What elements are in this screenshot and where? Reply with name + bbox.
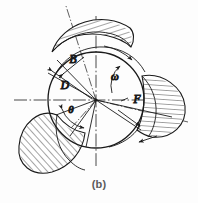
hub-center-point xyxy=(94,98,97,101)
label-pitch: F xyxy=(132,93,141,105)
label-angular-velocity: ω xyxy=(111,70,119,82)
blade-upper xyxy=(40,2,150,64)
label-blade-angle: θ xyxy=(68,103,74,115)
figure-caption: (b) xyxy=(0,178,198,190)
impeller-diagram: B D θ ω F xyxy=(0,0,198,203)
label-blade-width: B xyxy=(69,53,76,65)
label-diameter: D xyxy=(60,79,70,91)
figure-container: B D θ ω F (b) xyxy=(0,0,198,203)
blade-right xyxy=(132,68,192,144)
